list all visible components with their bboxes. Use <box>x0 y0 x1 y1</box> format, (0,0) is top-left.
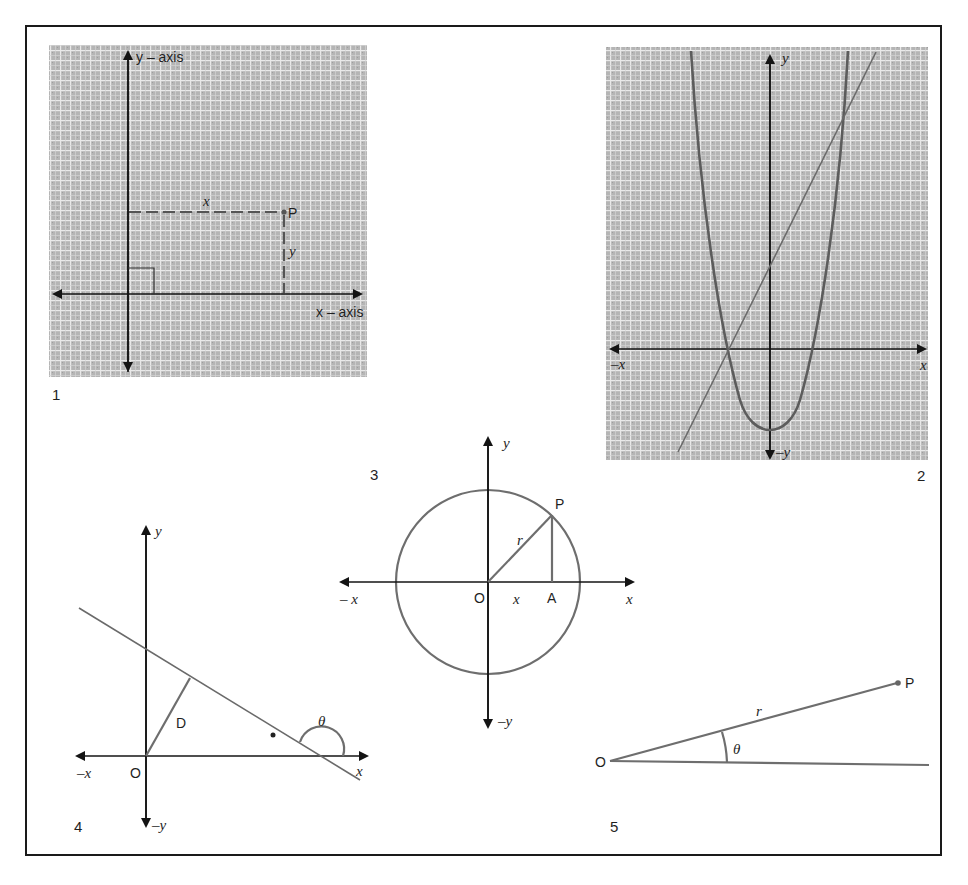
x-axis-label: x – axis <box>316 304 363 320</box>
theta-arc <box>722 732 727 762</box>
diagram-3-circle-radius: y 3 P r – x O x A x –y <box>339 435 633 729</box>
distance-d-label: D <box>176 715 186 731</box>
angle-dot-marker <box>271 733 276 738</box>
diagram-number: 4 <box>74 818 82 835</box>
origin-label: O <box>474 590 485 606</box>
point-a-label: A <box>547 590 557 606</box>
diagram-2-parabola-line: y –x x –y 2 <box>606 47 928 484</box>
sloped-line <box>79 608 360 780</box>
diagram-number: 1 <box>52 386 60 403</box>
theta-label: θ <box>318 713 326 729</box>
diagram-1-cartesian-point: y – axis x P y x – axis 1 <box>49 45 367 403</box>
neg-y-label: –y <box>775 444 791 460</box>
x-label: x <box>355 763 363 779</box>
neg-x-label: –x <box>610 356 626 372</box>
x-label: x <box>919 357 927 373</box>
x-label: x <box>625 591 633 607</box>
figure-canvas: y – axis x P y x – axis 1 y –x x –y 2 y … <box>0 0 968 885</box>
x-distance-label: x <box>202 193 210 209</box>
diagram-4-line-distance: y D θ –x O x 4 –y <box>74 523 367 835</box>
y-label: y <box>501 435 510 451</box>
radius-ray <box>610 683 897 761</box>
neg-y-label: –y <box>151 817 167 833</box>
theta-arc <box>300 726 344 756</box>
neg-y-label: –y <box>497 713 513 729</box>
radius-label: r <box>517 532 523 548</box>
neg-x-label: –x <box>76 765 92 781</box>
point-p-dot <box>895 680 901 686</box>
point-p-label: P <box>288 205 297 221</box>
point-p-dot <box>281 209 286 214</box>
origin-label: O <box>595 754 606 770</box>
origin-label: O <box>130 765 141 781</box>
point-p-label: P <box>905 675 914 691</box>
point-p-label: P <box>555 496 564 512</box>
theta-label: θ <box>733 741 741 757</box>
y-label: y <box>780 50 789 66</box>
neg-x-label: – x <box>339 591 358 607</box>
diagram-number: 3 <box>370 466 378 483</box>
y-axis-label: y – axis <box>136 49 183 65</box>
diagram-number: 2 <box>917 467 925 484</box>
segment-x-label: x <box>512 591 520 607</box>
y-label: y <box>153 523 162 539</box>
radius-label: r <box>756 703 762 719</box>
diagram-number: 5 <box>610 818 618 835</box>
radius-line <box>488 515 552 582</box>
y-distance-label: y <box>287 243 296 259</box>
initial-ray <box>610 761 929 765</box>
diagram-5-polar-angle: O P r θ 5 <box>595 675 929 835</box>
graph-paper-background <box>606 47 928 460</box>
